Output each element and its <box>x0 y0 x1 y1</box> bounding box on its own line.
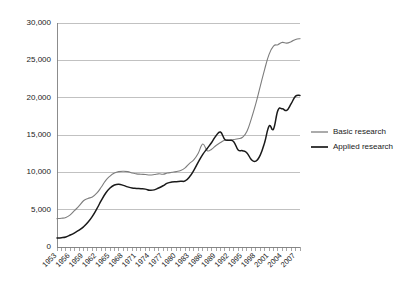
y-axis-labels: 05,00010,00015,00020,00025,00030,000 <box>27 18 52 251</box>
y-axis-tick-label: 0 <box>47 242 52 251</box>
y-axis-tick-label: 15,000 <box>27 130 52 139</box>
series-line-applied-research <box>57 95 300 238</box>
legend-label-applied-research: Applied research <box>333 142 393 151</box>
line-chart: 05,00010,00015,00020,00025,00030,000 195… <box>0 0 409 286</box>
chart-canvas: 05,00010,00015,00020,00025,00030,000 195… <box>0 0 409 286</box>
legend-label-basic-research: Basic research <box>333 127 386 136</box>
chart-legend: Basic researchApplied research <box>311 127 393 151</box>
y-axis-tick-label: 30,000 <box>27 18 52 27</box>
x-axis-tick-label: 2007 <box>279 251 297 269</box>
x-axis-labels: 1953195619591962196519681971197419771980… <box>40 251 297 269</box>
series-line-basic-research <box>57 39 300 219</box>
y-axis-tick-label: 20,000 <box>27 93 52 102</box>
y-axis-tick-label: 25,000 <box>27 55 52 64</box>
data-series <box>57 39 300 238</box>
y-axis-tick-label: 10,000 <box>27 167 52 176</box>
y-axis-tick-label: 5,000 <box>31 205 52 214</box>
x-axis-ticks <box>57 247 300 251</box>
